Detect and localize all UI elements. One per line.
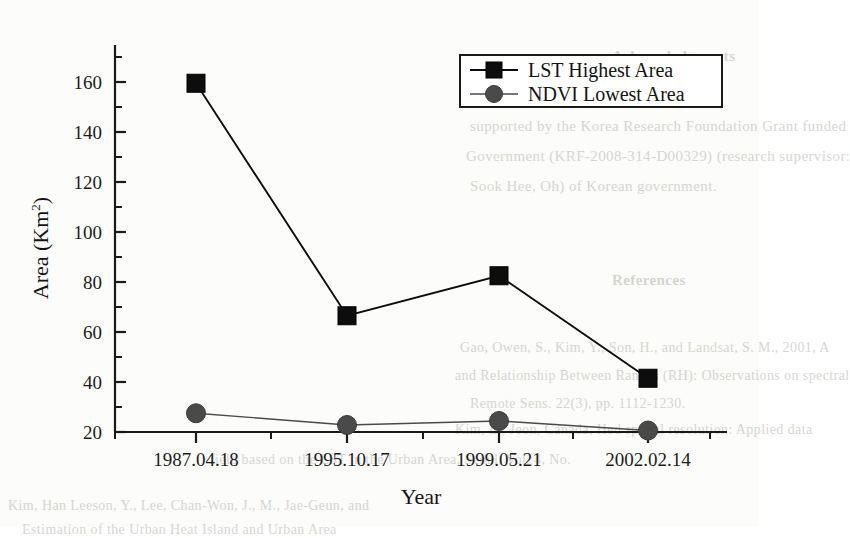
y-axis-title: Area (Km2): [28, 197, 53, 299]
circle-marker-icon: [486, 86, 503, 103]
x-axis-ticks: 1987.04.181995.10.171999.05.212002.02.14: [115, 432, 710, 470]
legend-label: LST Highest Area: [528, 59, 673, 82]
data-point-marker: [639, 421, 658, 440]
data-point-marker: [187, 404, 206, 423]
x-tick-label: 1999.05.21: [456, 449, 542, 470]
series-lst-highest-area: [187, 74, 657, 387]
series-line: [196, 83, 648, 378]
y-tick-label: 60: [83, 322, 102, 343]
x-tick-label: 1995.10.17: [304, 449, 390, 470]
series-line: [196, 413, 648, 430]
x-axis-title: Year: [401, 484, 442, 509]
y-tick-label: 40: [83, 372, 102, 393]
y-tick-label: 100: [74, 222, 103, 243]
y-tick-label: 160: [74, 72, 103, 93]
legend: LST Highest AreaNDVI Lowest Area: [460, 55, 722, 107]
y-tick-label: 20: [83, 422, 102, 443]
x-tick-label: 1987.04.18: [153, 449, 239, 470]
y-axis-title-base: Area (Km: [28, 211, 53, 300]
square-marker-icon: [486, 62, 502, 78]
y-axis-ticks: 20406080100120140160: [74, 57, 127, 443]
y-tick-label: 120: [74, 172, 103, 193]
data-point-marker: [490, 267, 508, 285]
legend-label: NDVI Lowest Area: [528, 83, 685, 105]
data-point-marker: [639, 369, 657, 387]
x-tick-label: 2002.02.14: [605, 449, 691, 470]
data-point-marker: [490, 412, 509, 431]
data-point-marker: [338, 307, 356, 325]
svg-text:Area (Km2): Area (Km2): [28, 197, 53, 299]
y-tick-label: 140: [74, 122, 103, 143]
y-axis-title-close: ): [28, 197, 53, 204]
y-tick-label: 80: [83, 272, 102, 293]
data-point-marker: [187, 74, 205, 92]
data-point-marker: [338, 416, 357, 435]
